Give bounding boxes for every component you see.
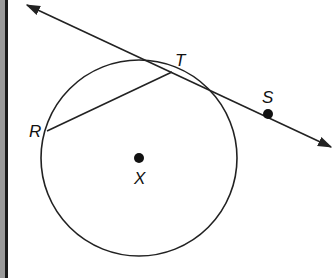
label-r: R xyxy=(29,122,41,141)
label-x: X xyxy=(133,169,146,188)
chord-rt xyxy=(47,72,172,131)
point-s-dot xyxy=(263,109,273,119)
tangent-line-ts xyxy=(27,5,331,147)
label-t: T xyxy=(175,51,187,70)
geometry-diagram: T S R X xyxy=(0,0,335,278)
center-x-dot xyxy=(134,153,144,163)
label-s: S xyxy=(262,88,274,107)
